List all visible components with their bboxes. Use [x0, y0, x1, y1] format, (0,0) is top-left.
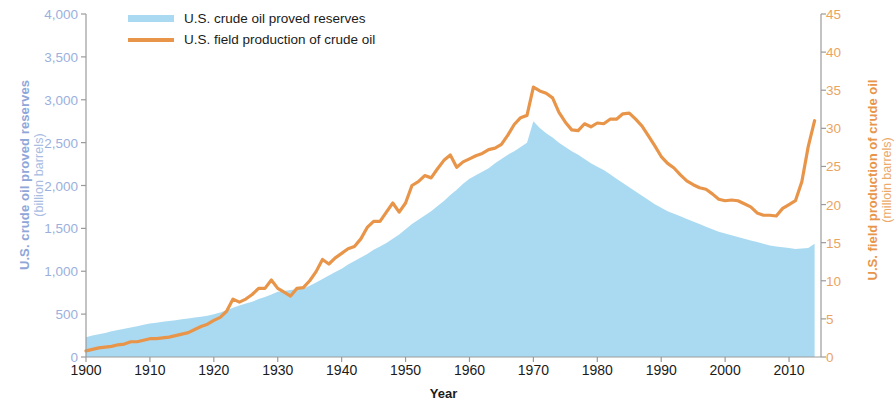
x-tick-label: 1950 [371, 362, 441, 378]
x-tick-label: 1910 [115, 362, 185, 378]
x-tick-label: 2010 [754, 362, 824, 378]
legend-label-production: U.S. field production of crude oil [184, 32, 375, 47]
x-tick-label: 1970 [498, 362, 568, 378]
legend-item-production: U.S. field production of crude oil [128, 29, 375, 50]
x-tick-label: 1960 [434, 362, 504, 378]
x-tick-label: 1930 [243, 362, 313, 378]
legend-item-reserves: U.S. crude oil proved reserves [128, 8, 375, 29]
line-swatch-icon [128, 38, 174, 42]
x-tick-label: 2000 [690, 362, 760, 378]
chart-legend: U.S. crude oil proved reserves U.S. fiel… [128, 8, 375, 50]
x-tick-label: 1920 [179, 362, 249, 378]
x-tick-label: 1980 [562, 362, 632, 378]
x-tick-label: 1940 [307, 362, 377, 378]
x-axis-title: Year [0, 386, 887, 401]
area-swatch-icon [128, 15, 174, 22]
x-tick-label: 1990 [626, 362, 696, 378]
x-tick-label: 1900 [51, 362, 121, 378]
legend-label-reserves: U.S. crude oil proved reserves [184, 11, 366, 26]
